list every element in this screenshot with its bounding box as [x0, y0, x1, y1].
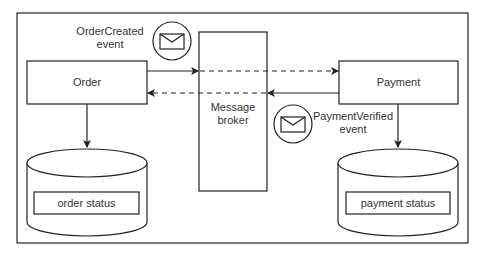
payment-verified-event-label: PaymentVerified event	[308, 110, 398, 136]
message-broker-label-line1: Message	[199, 101, 267, 114]
message-broker-label-line2: broker	[199, 114, 267, 127]
payment-verified-envelope-icon	[274, 105, 312, 143]
order-label: Order	[27, 76, 147, 89]
payment-database-cylinder	[338, 149, 458, 236]
order-database-cylinder	[27, 149, 147, 236]
order-created-line2: event	[70, 38, 150, 51]
order-created-event-label: OrderCreated event	[70, 25, 150, 51]
payment-verified-line2: event	[308, 123, 398, 136]
payment-label: Payment	[339, 76, 458, 89]
payment-verified-line1: PaymentVerified	[308, 110, 398, 123]
order-created-envelope-icon	[153, 22, 191, 60]
message-broker-label: Message broker	[199, 101, 267, 127]
order-created-line1: OrderCreated	[70, 25, 150, 38]
order-status-label: order status	[34, 197, 139, 210]
payment-status-label: payment status	[346, 197, 450, 210]
